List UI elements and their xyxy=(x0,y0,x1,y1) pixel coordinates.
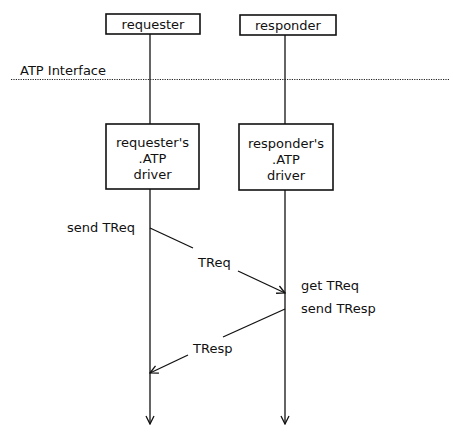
tresp-label: TResp xyxy=(192,341,232,356)
treq-arrow-segment-1 xyxy=(150,228,193,248)
responder-box: responder xyxy=(240,15,336,35)
treq-label: TReq xyxy=(197,255,231,270)
atp-interface-label: ATP Interface xyxy=(20,63,106,78)
sequence-diagram: requester responder ATP Interface reques… xyxy=(0,0,453,436)
message-treq: TReq xyxy=(150,228,285,293)
tresp-arrow-segment-1 xyxy=(223,309,285,337)
event-get-treq: get TReq xyxy=(301,278,359,293)
event-send-tresp: send TResp xyxy=(301,301,376,316)
responder-label: responder xyxy=(255,18,322,33)
message-tresp: TResp xyxy=(150,309,285,373)
requester-box: requester xyxy=(106,14,200,34)
requester-driver-line-2: .ATP xyxy=(139,151,167,166)
event-send-treq: send TReq xyxy=(67,220,135,235)
requester-driver-box: requester's .ATP driver xyxy=(106,124,199,189)
tresp-arrow-segment-2 xyxy=(150,355,188,373)
requester-label: requester xyxy=(122,17,185,32)
treq-arrow-segment-2 xyxy=(238,271,285,293)
responder-driver-line-3: driver xyxy=(267,168,306,183)
responder-driver-box: responder's .ATP driver xyxy=(239,124,333,190)
responder-driver-line-2: .ATP xyxy=(272,152,300,167)
requester-driver-line-3: driver xyxy=(133,167,172,182)
responder-driver-line-1: responder's xyxy=(248,136,324,151)
requester-driver-line-1: requester's xyxy=(116,135,189,150)
